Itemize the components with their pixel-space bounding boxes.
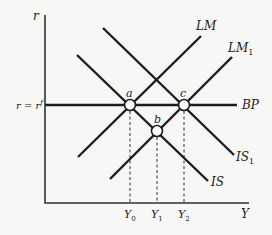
point-a-label: a [126, 87, 133, 100]
is1-curve [103, 28, 234, 155]
is-lm-bp-diagram: r Y LM LM1 BP r = rf IS1 IS a b c Y0 Y1 … [0, 0, 272, 235]
point-c [179, 100, 190, 111]
tick-y2: Y2 [178, 208, 190, 223]
is1-label: IS1 [235, 150, 254, 166]
point-a [125, 100, 136, 111]
lm1-label: LM1 [227, 41, 253, 57]
lm-label: LM [195, 19, 217, 33]
is-curve [77, 55, 208, 181]
r-equals-rf-label: r = rf [16, 99, 44, 111]
point-b [152, 126, 163, 137]
point-b-label: b [154, 113, 161, 126]
x-axis-label: Y [241, 207, 250, 221]
point-c-label: c [180, 87, 186, 100]
tick-y1: Y1 [151, 208, 163, 223]
lm1-curve [110, 57, 232, 179]
tick-y0: Y0 [124, 208, 136, 223]
is-label: IS [210, 175, 224, 189]
bp-label: BP [241, 98, 260, 112]
y-axis-label: r [33, 9, 40, 23]
